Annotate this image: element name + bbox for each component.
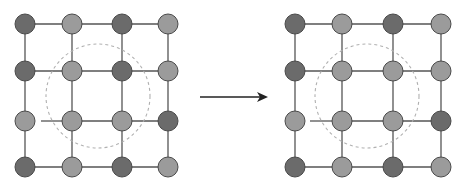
- light-node: [431, 61, 451, 81]
- dark-node: [112, 14, 132, 34]
- light-node: [62, 111, 82, 131]
- grid-nodes: [15, 14, 178, 177]
- dark-node: [285, 61, 305, 81]
- dark-node: [112, 157, 132, 177]
- light-node: [383, 61, 403, 81]
- dark-node: [15, 14, 35, 34]
- light-node: [332, 111, 352, 131]
- light-node: [158, 157, 178, 177]
- light-node: [62, 61, 82, 81]
- lattice-transition-diagram: [0, 0, 460, 187]
- light-node: [431, 157, 451, 177]
- light-node: [383, 111, 403, 131]
- light-node: [158, 14, 178, 34]
- light-node: [62, 157, 82, 177]
- light-node: [332, 157, 352, 177]
- light-node: [285, 111, 305, 131]
- dark-node: [15, 157, 35, 177]
- dark-node: [158, 111, 178, 131]
- light-node: [158, 61, 178, 81]
- dark-node: [15, 61, 35, 81]
- light-node: [15, 111, 35, 131]
- light-node: [62, 14, 82, 34]
- lattice-grid-before: [15, 14, 178, 177]
- dark-node: [383, 157, 403, 177]
- light-node: [332, 14, 352, 34]
- dark-node: [285, 157, 305, 177]
- light-node: [112, 111, 132, 131]
- transition-arrow: [200, 92, 268, 102]
- lattice-grid-after: [285, 14, 451, 177]
- light-node: [431, 14, 451, 34]
- dark-node: [112, 61, 132, 81]
- dark-node: [383, 14, 403, 34]
- dark-node: [431, 111, 451, 131]
- light-node: [332, 61, 352, 81]
- dashed-region-circle: [315, 44, 419, 148]
- dashed-region-circle: [46, 44, 150, 148]
- grid-nodes: [285, 14, 451, 177]
- dark-node: [285, 14, 305, 34]
- diagram-canvas: [0, 0, 460, 187]
